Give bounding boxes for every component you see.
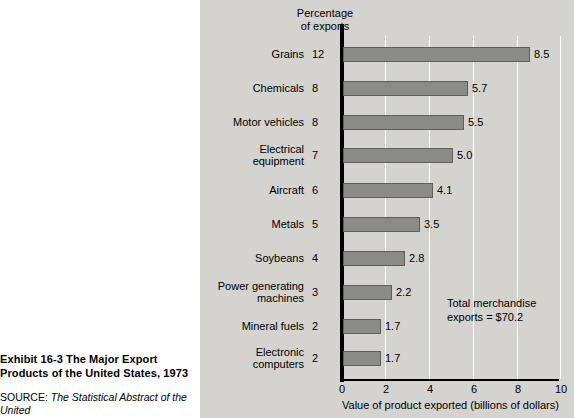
x-tick-0: 0 (330, 383, 354, 395)
bar-value-1: 5.7 (472, 82, 487, 94)
bar-label-2: Motor vehicles (200, 116, 304, 129)
bar-value-5: 3.5 (424, 218, 439, 230)
exhibit-title-line-2: Products of the United States, 1973 (0, 366, 200, 380)
bar-label-7a: Power generating (200, 280, 304, 293)
x-tick-3: 6 (462, 383, 486, 395)
bar-3 (343, 148, 453, 163)
bar-value-2: 5.5 (468, 116, 483, 128)
bar-value-7: 2.2 (396, 286, 411, 298)
bar-8 (343, 319, 381, 334)
figure-caption: Exhibit 16-3 The Major Export Products o… (0, 352, 200, 417)
x-tick-4: 8 (506, 383, 530, 395)
bar-percent-8: 2 (312, 320, 328, 332)
bar-value-8: 1.7 (385, 320, 400, 332)
bar-7 (343, 285, 392, 300)
bar-label-5: Metals (200, 218, 304, 231)
bar-label-1: Chemicals (200, 82, 304, 95)
bar-percent-3: 7 (312, 149, 328, 161)
bar-label-9a: Electronic (200, 346, 304, 359)
source-note: SOURCE: The Statistical Abstract of the … (0, 391, 200, 417)
bar-0 (343, 47, 530, 62)
bar-value-9: 1.7 (385, 352, 400, 364)
plot-area: 0 2 4 6 8 10 Grains 12 8.5 Chemicals 8 5… (200, 0, 574, 418)
bar-percent-6: 4 (312, 252, 328, 264)
bar-label-0: Grains (200, 48, 304, 61)
total-note-line-1: Total merchandise (447, 296, 565, 310)
gridline-10 (560, 36, 561, 379)
bar-label-3a: Electrical (200, 143, 304, 156)
bar-label-7b: machines (200, 292, 304, 305)
x-tick-1: 2 (374, 383, 398, 395)
bar-value-3: 5.0 (457, 149, 472, 161)
bar-percent-0: 12 (312, 48, 328, 60)
source-label: SOURCE: (0, 391, 51, 403)
bar-percent-5: 5 (312, 218, 328, 230)
bar-value-6: 2.8 (409, 252, 424, 264)
bar-value-0: 8.5 (534, 48, 549, 60)
x-axis-line (340, 379, 559, 381)
bar-percent-7: 3 (312, 286, 328, 298)
bar-percent-1: 8 (312, 82, 328, 94)
gridline-8 (517, 36, 518, 379)
bar-label-9b: computers (200, 358, 304, 371)
bar-2 (343, 115, 464, 130)
x-tick-2: 4 (418, 383, 442, 395)
total-merchandise-note: Total merchandise exports = $70.2 (447, 296, 565, 324)
chart-page: Exhibit 16-3 The Major Export Products o… (0, 0, 574, 418)
chart-panel: Percentage of exports 0 2 4 6 8 10 Grain… (200, 0, 574, 418)
exhibit-title-line-1: Exhibit 16-3 The Major Export (0, 352, 200, 366)
bar-label-6: Soybeans (200, 252, 304, 265)
bar-5 (343, 217, 420, 232)
bar-label-3b: equipment (200, 155, 304, 168)
x-axis-title: Value of product exported (billions of d… (342, 399, 572, 411)
bar-percent-9: 2 (312, 352, 328, 364)
bar-percent-4: 6 (312, 184, 328, 196)
bar-4 (343, 183, 433, 198)
bar-percent-2: 8 (312, 116, 328, 128)
bar-label-8: Mineral fuels (200, 320, 304, 333)
x-tick-5: 10 (549, 383, 573, 395)
bar-1 (343, 81, 468, 96)
total-note-line-2: exports = $70.2 (447, 310, 565, 324)
bar-6 (343, 251, 405, 266)
bar-label-4: Aircraft (200, 184, 304, 197)
bar-value-4: 4.1 (437, 184, 452, 196)
bar-9 (343, 351, 381, 366)
